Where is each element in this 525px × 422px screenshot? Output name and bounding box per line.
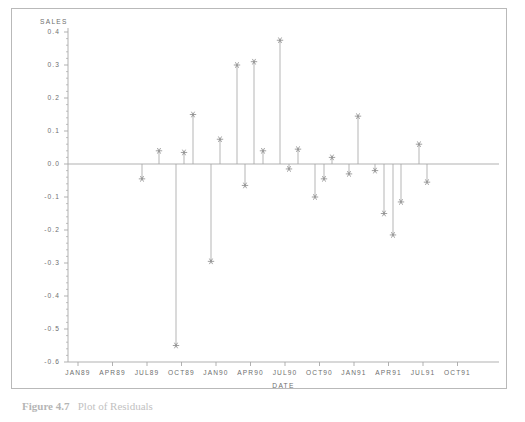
x-tick-label: JAN91	[341, 369, 366, 376]
x-tick-label: JUL90	[273, 369, 298, 376]
figure-frame: 0.40.30.20.10.0-0.1-0.2-0.3-0.4-0.5-0.6 …	[11, 8, 507, 389]
caption-number: 4.7	[56, 400, 70, 412]
y-tick-label: -0.3	[44, 259, 60, 266]
y-tick-label: 0.3	[48, 61, 60, 68]
x-tick-label: APR91	[375, 369, 401, 376]
x-axis: JAN89APR89JUL89OCT89JAN90APR90JUL90OCT90…	[65, 362, 499, 376]
x-tick-label: APR90	[237, 369, 263, 376]
x-tick-label: APR89	[99, 369, 125, 376]
needle-series	[68, 40, 499, 345]
x-tick-label: JAN90	[203, 369, 228, 376]
y-tick-label: 0.0	[48, 160, 60, 167]
residual-plot-chart: 0.40.30.20.10.0-0.1-0.2-0.3-0.4-0.5-0.6 …	[12, 9, 506, 388]
x-tick-label: OCT89	[168, 369, 195, 376]
y-tick-label: -0.4	[44, 292, 60, 299]
y-tick-label: -0.1	[44, 193, 60, 200]
y-tick-label: -0.2	[44, 226, 60, 233]
y-tick-label: 0.2	[48, 94, 60, 101]
caption-text: Plot of Residuals	[78, 400, 153, 412]
x-tick-label: OCT91	[444, 369, 471, 376]
y-tick-label: 0.4	[48, 28, 60, 35]
x-tick-label: JAN89	[65, 369, 90, 376]
figure-caption: Figure 4.7 Plot of Residuals	[22, 400, 352, 420]
x-tick-label: OCT90	[306, 369, 333, 376]
x-axis-title: DATE	[272, 382, 294, 388]
x-tick-label: JUL91	[411, 369, 436, 376]
y-tick-label: -0.5	[44, 325, 60, 332]
caption-label: Figure	[22, 400, 53, 412]
y-axis-title: SALES	[40, 18, 68, 25]
y-tick-label: 0.1	[48, 127, 60, 134]
y-tick-label: -0.6	[44, 358, 60, 365]
data-point-markers	[139, 37, 430, 348]
y-axis: 0.40.30.20.10.0-0.1-0.2-0.3-0.4-0.5-0.6	[44, 28, 68, 365]
x-tick-label: JUL89	[135, 369, 160, 376]
